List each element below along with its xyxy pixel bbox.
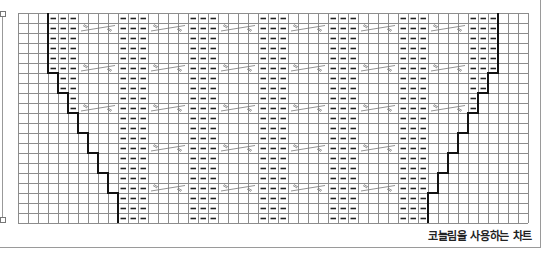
selection-handle-bottom[interactable] <box>0 217 6 223</box>
selection-line[interactable] <box>2 14 3 220</box>
selection-handle-top[interactable] <box>0 11 6 17</box>
chart-symbols <box>51 19 497 219</box>
frame-border-bottom <box>0 247 541 248</box>
chart-caption: 코늘림을 사용하는 차트 <box>428 227 532 243</box>
knitting-chart <box>0 0 546 256</box>
frame-border-right <box>540 0 541 248</box>
